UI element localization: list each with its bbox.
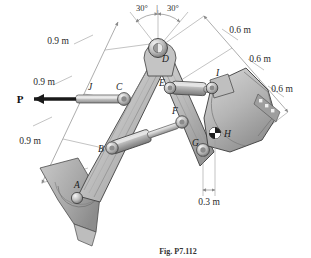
angle-label-left: 30° [136, 3, 148, 13]
joint-label-H: H [223, 129, 232, 139]
dim-label-0-6-m-lower: 0.6 m [271, 84, 293, 94]
joint-label-F: F [171, 106, 178, 116]
lift-cylinder-rod-gloss [76, 97, 122, 99]
excavator-diagram-svg: 0.9 m 0.9 m 0.9 m 0.6 m 0.6 m 0.6 m 30° … [0, 0, 311, 258]
figure-container: 0.9 m 0.9 m 0.9 m 0.6 m 0.6 m 0.6 m 30° … [0, 0, 311, 258]
joint-label-C: C [116, 82, 123, 92]
joint-label-D: D [161, 54, 169, 64]
figure-caption-group: Fig. P7.112 [159, 247, 197, 256]
joint-pin-I-inner [210, 86, 215, 91]
dim-label-0-9-m-middle: 0.9 m [33, 77, 55, 87]
joint-label-E: E [158, 78, 165, 88]
dim-label-0-6-m-upper: 0.6 m [229, 25, 251, 35]
lift-cylinder-rod [76, 95, 122, 103]
figure-caption: Fig. P7.112 [159, 247, 197, 256]
dim-label-0-6-m-middle: 0.6 m [249, 54, 271, 64]
angle-separator: | [156, 3, 158, 13]
joint-pin-C-inner [121, 96, 126, 101]
joint-label-A: A [73, 180, 80, 190]
joint-pin-G-inner [200, 147, 205, 152]
dim-label-0-9-m-upper: 0.9 m [47, 36, 69, 46]
bucket-tooth-1 [259, 99, 262, 102]
force-P-label: P [17, 93, 24, 105]
joint-label-G: G [192, 138, 199, 148]
bucket-tooth-2 [265, 104, 268, 107]
joint-label-B: B [98, 144, 104, 154]
angle-label-right: 30° [167, 3, 179, 13]
joint-pin-A [71, 192, 82, 203]
bucket-tooth-3 [271, 109, 274, 112]
dim-label-0-3-m: 0.3 m [198, 197, 220, 207]
stick-cylinder-barrel [172, 81, 207, 96]
joint-pin-B-inner [109, 145, 114, 150]
lift-cylinder-assembly [76, 95, 122, 103]
center-of-gravity-marker-H [209, 127, 220, 138]
joint-pin-F-inner [179, 119, 184, 124]
dim-label-0-9-m-lower: 0.9 m [19, 136, 41, 146]
joint-pin-E-inner [168, 86, 173, 91]
